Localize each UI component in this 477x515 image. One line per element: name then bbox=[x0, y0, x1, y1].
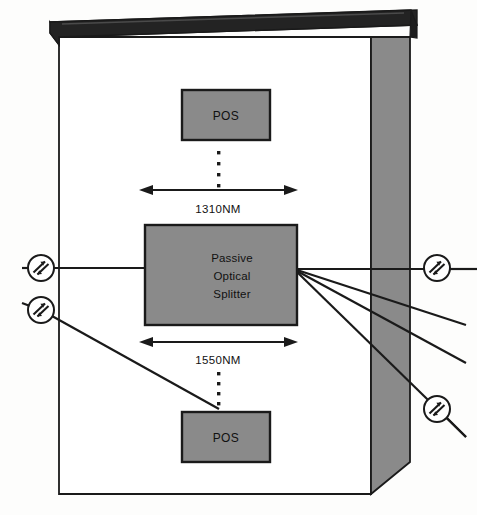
connector-right-lower bbox=[424, 396, 466, 437]
dot bbox=[217, 173, 220, 176]
dot bbox=[217, 402, 220, 405]
pos-box-bottom: POS bbox=[182, 412, 270, 462]
dot bbox=[217, 382, 220, 385]
splitter-label-line-3: Splitter bbox=[213, 288, 250, 300]
connector-left-upper bbox=[22, 255, 54, 281]
optical-transceiver-icon bbox=[424, 396, 450, 422]
label-1550nm: 1550NM bbox=[195, 354, 240, 366]
splitter-label-line-2: Optical bbox=[213, 270, 250, 282]
dot bbox=[217, 392, 220, 395]
pos-box-top: POS bbox=[182, 90, 270, 140]
connector-right-upper bbox=[424, 255, 450, 281]
splitter-label-line-1: Passive bbox=[211, 252, 253, 264]
dot bbox=[217, 162, 220, 165]
dot bbox=[217, 372, 220, 375]
pos-bottom-label: POS bbox=[213, 431, 240, 445]
optical-transceiver-icon bbox=[424, 255, 450, 281]
cabinet-right-side-panel bbox=[371, 37, 410, 494]
dot bbox=[217, 151, 220, 154]
connector-right-lower-tail bbox=[447, 418, 466, 437]
dot bbox=[217, 184, 220, 187]
optical-splitter-diagram: 1310NM 1550NM POS Passive bbox=[0, 0, 477, 515]
connector-left-lower bbox=[22, 297, 54, 323]
passive-optical-splitter-box: Passive Optical Splitter bbox=[145, 225, 297, 325]
pos-top-label: POS bbox=[213, 109, 240, 123]
optical-transceiver-icon bbox=[28, 297, 54, 323]
optical-transceiver-icon bbox=[28, 255, 54, 281]
label-1310nm: 1310NM bbox=[195, 203, 240, 215]
diagram-canvas: 1310NM 1550NM POS Passive bbox=[0, 0, 477, 515]
